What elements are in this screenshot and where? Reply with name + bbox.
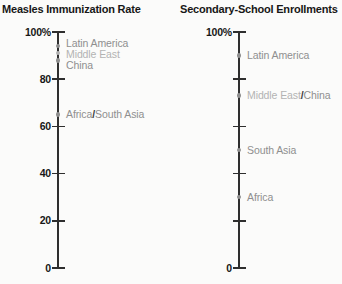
region-label-middle-east-china: Middle East/China [247, 89, 331, 102]
data-point-china [56, 58, 61, 63]
data-point-latin-america [237, 53, 242, 58]
tick-label-20: 20 [0, 214, 51, 227]
data-point-africa-south-asia [56, 112, 61, 117]
tick-label-80: 80 [0, 73, 51, 86]
tick-label-40: 40 [0, 167, 51, 180]
tick-mark-100 [233, 31, 246, 33]
region-label-segment-africa: Africa [247, 191, 273, 203]
region-label-latin-america: Latin America [247, 49, 309, 62]
region-label-africa-south-asia: Africa/South Asia [66, 108, 144, 121]
region-label-segment-china: China [66, 59, 93, 71]
data-point-middle-east [56, 51, 61, 56]
data-point-middle-east-china [237, 93, 242, 98]
tick-label-60: 60 [0, 120, 51, 133]
region-label-segment-china: China [304, 89, 331, 101]
region-label-china: China [66, 59, 93, 72]
tick-mark-80 [233, 78, 246, 80]
region-label-south-asia: South Asia [247, 144, 296, 157]
region-label-africa: Africa [247, 191, 273, 204]
region-label-segment-latin-america: Latin America [247, 49, 309, 61]
tick-mark-20 [233, 220, 246, 222]
region-label-segment-south-asia: South Asia [95, 108, 144, 120]
chart-title-secondary-school-enrollments: Secondary-School Enrollments [180, 3, 338, 15]
region-label-segment-middle-east: Middle East [66, 48, 120, 60]
chart-title-measles-immunization-rate: Measles Immunization Rate [2, 3, 141, 15]
tick-mark-60 [52, 126, 65, 128]
tick-mark-0 [233, 267, 246, 269]
data-point-africa [237, 195, 242, 200]
tick-label-0: 0 [0, 262, 232, 275]
region-label-segment-south-asia: South Asia [247, 144, 296, 156]
tick-mark-60 [233, 126, 246, 128]
tick-mark-20 [52, 220, 65, 222]
tick-mark-80 [52, 78, 65, 80]
tick-label-100: 100% [0, 26, 232, 39]
region-label-segment-middle-east: Middle East [247, 89, 301, 101]
region-label-segment-africa: Africa [66, 108, 92, 120]
data-point-latin-america [56, 44, 61, 49]
axis-line [57, 32, 59, 268]
data-point-south-asia [237, 148, 242, 153]
tick-mark-40 [52, 173, 65, 175]
tick-mark-40 [233, 173, 246, 175]
figure: Measles Immunization Rate Secondary-Scho… [0, 0, 342, 284]
